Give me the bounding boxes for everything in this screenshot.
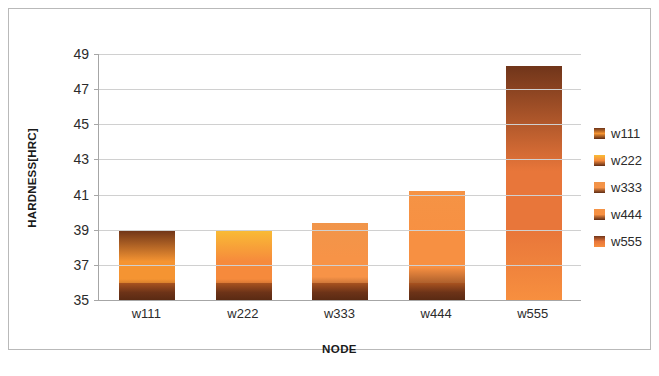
gridline [99,195,581,196]
legend-swatch-icon [594,128,605,139]
gridline [99,124,581,125]
legend-item[interactable]: w333 [594,181,642,194]
y-axis-tick-mark [94,230,99,231]
bar-slot [196,54,293,300]
y-axis-tick-label: 35 [73,293,89,307]
y-axis-tick-mark [94,265,99,266]
y-axis-tick-label: 47 [73,82,89,96]
x-axis-tick-labels: w111w222w333w444w555 [98,306,581,326]
x-axis-tick-label: w111 [132,306,161,321]
bar-series [99,54,581,300]
y-axis-tick-mark [94,300,99,301]
chart-frame: HARDNESS[HRC] 3537394143454749 w111w222w… [8,8,651,350]
y-axis-tick-label: 45 [73,117,89,131]
y-axis-tick-mark [94,159,99,160]
gridline [99,159,581,160]
legend-item-label: w555 [611,235,642,248]
legend-item-label: w222 [611,154,642,167]
y-axis-tick-label: 49 [73,47,89,61]
x-axis-tick-label: w222 [227,306,258,321]
legend-item-label: w333 [611,181,642,194]
legend-item-label: w444 [611,208,642,221]
gridline [99,265,581,266]
y-axis-tick-label: 41 [73,188,89,202]
bar-slot [292,54,389,300]
gridline [99,89,581,90]
y-axis-title: HARDNESS[HRC] [23,54,41,301]
legend-swatch-icon [594,182,605,193]
y-axis-tick-label: 39 [73,223,89,237]
plot-area: 3537394143454749 [98,54,581,301]
bar-base-band [312,283,368,300]
y-axis-title-text: HARDNESS[HRC] [26,128,38,228]
bar-base-band [216,283,272,300]
y-axis-tick-label: 37 [73,258,89,272]
y-axis-tick-mark [94,124,99,125]
bar-slot [99,54,196,300]
y-axis-tick-label: 43 [73,152,89,166]
gridline [99,230,581,231]
bar-slot [389,54,486,300]
legend-item[interactable]: w222 [594,154,642,167]
chart-legend: w111w222w333w444w555 [594,127,642,248]
legend-item[interactable]: w111 [594,127,642,140]
legend-swatch-icon [594,236,605,247]
chart-screenshot: HARDNESS[HRC] 3537394143454749 w111w222w… [0,0,659,376]
x-axis-title: NODE [98,343,581,355]
bar[interactable] [312,223,368,300]
bar-base-band [119,283,175,300]
x-axis-tick-label: w555 [517,306,548,321]
bar-slot [485,54,582,300]
y-axis-tick-mark [94,195,99,196]
x-axis-tick-label: w444 [421,306,452,321]
legend-item-label: w111 [611,127,640,140]
y-axis-tick-mark [94,89,99,90]
legend-item[interactable]: w555 [594,235,642,248]
gridline [99,54,581,55]
legend-swatch-icon [594,209,605,220]
bar-base-band [409,283,465,300]
legend-item[interactable]: w444 [594,208,642,221]
bar[interactable] [409,191,465,300]
legend-swatch-icon [594,155,605,166]
y-axis-tick-mark [94,54,99,55]
x-axis-tick-label: w333 [324,306,355,321]
